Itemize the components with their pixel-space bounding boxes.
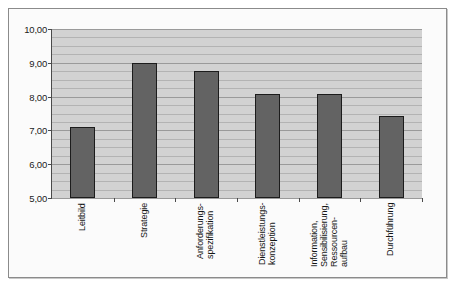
y-axis-tick-label: 8,00 [29, 91, 47, 102]
category-label-line: aufbau [339, 203, 349, 267]
bar[interactable] [379, 116, 404, 198]
y-axis-tick-label: 5,00 [29, 193, 47, 204]
bars-group [52, 29, 422, 198]
category-label-line: Sensibilisierung, [319, 203, 329, 267]
bar[interactable] [255, 94, 280, 198]
bar[interactable] [317, 94, 342, 198]
bar[interactable] [70, 127, 95, 198]
category-label-line: Durchführung [385, 203, 395, 256]
x-axis-category-label: Leitbild [54, 201, 110, 279]
x-axis-category-labels: LeitbildStrategieAnforderungs-spezifikat… [51, 201, 421, 279]
y-axis-tick-label: 7,00 [29, 125, 47, 136]
category-label-text: Information,Sensibilisierung,Ressourcen-… [309, 203, 349, 267]
category-label-text: Leitbild [77, 203, 87, 231]
bar[interactable] [132, 63, 157, 198]
y-axis-tick-label: 10,00 [24, 24, 47, 35]
x-axis-category-label: Strategie [116, 201, 172, 279]
y-axis: 10,009,008,007,006,005,00 [9, 21, 49, 199]
category-label-line: konzeption [267, 203, 277, 265]
category-label-line: Anforderungs- [195, 203, 205, 259]
category-label-text: Durchführung [385, 203, 395, 256]
y-axis-tick-label: 6,00 [29, 159, 47, 170]
category-label-line: Leitbild [77, 203, 87, 231]
plot-area [51, 29, 422, 199]
category-label-line: Dienstleistungs- [257, 203, 267, 265]
category-label-line: Strategie [139, 203, 149, 238]
bar-chart: 10,009,008,007,006,005,00 LeitbildStrate… [9, 9, 448, 279]
chart-frame: 10,009,008,007,006,005,00 LeitbildStrate… [8, 8, 447, 278]
y-axis-tick-label: 9,00 [29, 57, 47, 68]
category-label-line: Information, [309, 203, 319, 267]
x-axis-category-label: Anforderungs-spezifikation [177, 201, 233, 279]
x-axis-tick-mark [422, 198, 423, 202]
category-label-text: Dienstleistungs-konzeption [257, 203, 277, 265]
category-label-text: Anforderungs-spezifikation [195, 203, 215, 259]
x-axis-category-label: Durchführung [362, 201, 418, 279]
y-axis-tick-mark [48, 198, 52, 199]
category-label-line: Ressourcen- [329, 203, 339, 267]
x-axis-category-label: Information,Sensibilisierung,Ressourcen-… [301, 201, 357, 279]
category-label-text: Strategie [139, 203, 149, 238]
x-axis-category-label: Dienstleistungs-konzeption [239, 201, 295, 279]
category-label-line: spezifikation [205, 203, 215, 259]
bar[interactable] [194, 71, 219, 198]
